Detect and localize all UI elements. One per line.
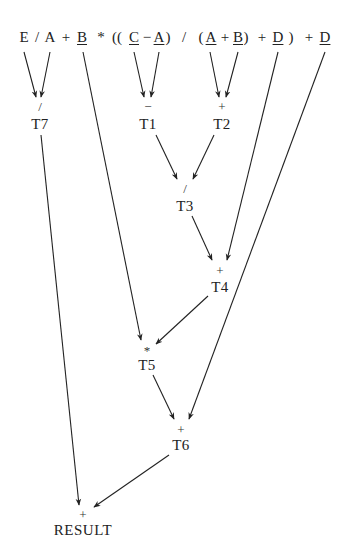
expression-token: (( <box>112 30 122 45</box>
expression-token: − <box>143 30 151 45</box>
arrow-b-to-t5 <box>83 52 141 340</box>
expression-token: B <box>233 30 243 45</box>
node-operator-t2: + <box>218 100 225 113</box>
arrow-t2-to-t3 <box>193 135 214 179</box>
node-operator-result: + <box>79 508 86 521</box>
node-label-t6: T6 <box>172 438 190 453</box>
node-label-t4: T4 <box>211 280 229 295</box>
node-label-t7: T7 <box>31 117 49 132</box>
expression-token: A <box>154 30 165 45</box>
arrow-t4-to-t5 <box>156 296 208 344</box>
expression-token: A <box>206 30 217 45</box>
node-operator-t4: + <box>216 264 223 277</box>
expression-token: * <box>97 30 105 45</box>
arrow-a-to-t1 <box>151 52 159 97</box>
expression-token: B <box>77 30 87 45</box>
expression-token: C <box>129 30 139 45</box>
expression-token: ) <box>166 30 171 45</box>
arrow-a-to-t7 <box>41 52 50 97</box>
expression-token: + <box>221 30 229 45</box>
expression-token: D <box>273 30 284 45</box>
node-operator-t3: / <box>183 182 187 195</box>
expression-token: / <box>35 30 39 45</box>
expression-token: E <box>19 30 28 45</box>
node-operator-t6: + <box>177 423 184 436</box>
arrow-d-to-t4 <box>227 52 278 260</box>
arrow-t5-to-t6 <box>153 375 174 419</box>
arrow-e-to-t7 <box>24 52 36 97</box>
node-operator-t1: − <box>144 100 151 113</box>
edges-layer <box>0 0 348 554</box>
expression-token: D <box>320 30 331 45</box>
node-label-t1: T1 <box>139 117 157 132</box>
arrow-t7-to-result <box>41 135 79 505</box>
arrow-t3-to-t4 <box>192 216 212 260</box>
expression-token: + <box>258 30 266 45</box>
node-operator-t5: * <box>144 344 151 357</box>
expression-token: + <box>62 30 70 45</box>
arrow-d-to-t6 <box>189 52 325 419</box>
arrow-b-to-t2 <box>226 52 238 97</box>
expression-token: + <box>305 30 313 45</box>
node-label-t3: T3 <box>176 199 194 214</box>
arrow-c-to-t1 <box>134 52 144 97</box>
expression-token: ) <box>244 30 249 45</box>
node-label-result: RESULT <box>54 523 112 538</box>
node-label-t2: T2 <box>213 117 231 132</box>
arrow-t1-to-t3 <box>156 135 177 179</box>
expression-token: / <box>182 30 186 45</box>
expression-token: A <box>45 30 56 45</box>
expression-token: ( <box>199 30 204 45</box>
node-operator-t7: / <box>38 100 42 113</box>
expression-token: ) <box>289 30 294 45</box>
node-label-t5: T5 <box>138 358 156 373</box>
arrow-a-to-t2 <box>210 52 219 97</box>
arrow-t6-to-result <box>94 455 169 507</box>
